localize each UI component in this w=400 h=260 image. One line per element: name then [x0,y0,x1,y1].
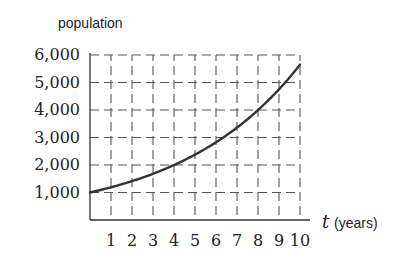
x-tick-label: 7 [232,231,242,250]
y-tick-label: 6,000 [34,45,80,64]
axes [90,53,310,220]
x-axis-unit: (years) [334,215,378,231]
x-tick-label: 1 [106,231,116,250]
x-tick-label: 4 [169,231,179,250]
x-tick-labels: 12345678910 [106,231,310,250]
y-tick-labels: 1,0002,0003,0004,0005,0006,000 [34,45,80,202]
y-axis-title: population [58,15,123,31]
x-tick-label: 10 [290,231,310,250]
x-tick-label: 5 [190,231,200,250]
x-tick-label: 6 [211,231,221,250]
x-tick-label: 3 [148,231,158,250]
x-tick-label: 8 [253,231,263,250]
y-tick-label: 4,000 [34,100,80,119]
y-tick-label: 2,000 [34,155,80,174]
population-growth-chart: population 1,0002,0003,0004,0005,0006,00… [0,0,400,260]
x-tick-label: 2 [127,231,137,250]
y-tick-label: 1,000 [34,183,80,202]
y-tick-label: 3,000 [34,128,80,147]
dashed-grid [90,55,300,220]
y-tick-label: 5,000 [34,73,80,92]
x-axis-variable: t [322,211,330,232]
x-tick-label: 9 [274,231,284,250]
